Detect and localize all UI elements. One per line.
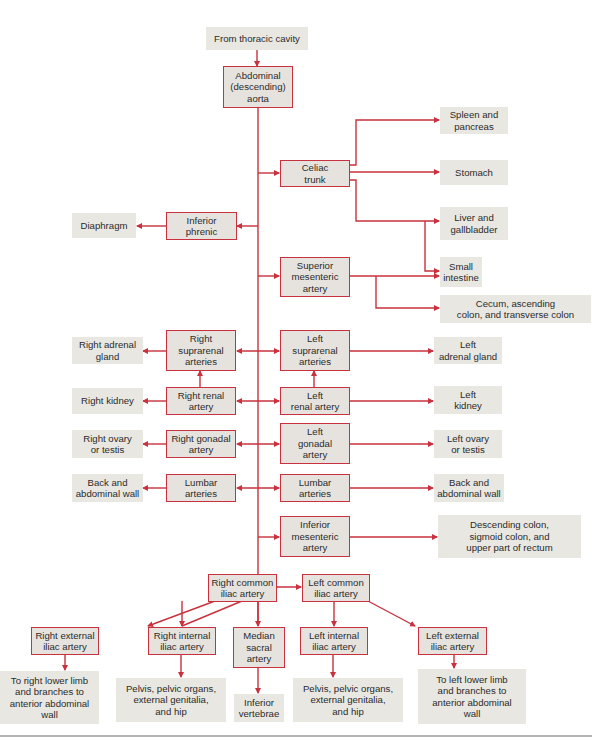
inferior-phrenic-node: Inferior phrenic: [166, 212, 237, 240]
right-suprarenal-node: Right suprarenal arteries: [166, 330, 236, 371]
superior-mesenteric-node: Superior mesenteric artery: [280, 257, 350, 297]
source-thoracic-cavity: From thoracic cavity: [206, 27, 308, 50]
right-external-iliac-node: Right external iliac artery: [31, 627, 99, 655]
left-common-iliac-node: Left common iliac artery: [302, 574, 370, 602]
left-pelvis-target: Pelvis, pelvic organs, external genitali…: [293, 678, 403, 722]
left-internal-iliac-node: Left internal iliac artery: [300, 627, 368, 655]
right-internal-iliac-node: Right internal iliac artery: [148, 627, 216, 655]
median-sacral-node: Median sacral artery: [233, 627, 285, 668]
left-lumbar-node: Lumbar arteries: [280, 474, 350, 502]
right-adrenal-target: Right adrenal gland: [72, 337, 143, 364]
left-ovary-testis-target: Left ovary or testis: [434, 430, 502, 458]
cecum-colon-target: Cecum, ascending colon, and transverse c…: [440, 295, 591, 323]
right-lumbar-node: Lumbar arteries: [166, 474, 236, 502]
left-kidney-target: Left kidney: [434, 386, 502, 414]
right-pelvis-target: Pelvis, pelvic organs, external genitali…: [116, 678, 226, 722]
left-back-wall-target: Back and abdominal wall: [434, 474, 504, 502]
right-back-wall-target: Back and abdominal wall: [72, 474, 143, 502]
right-kidney-target: Right kidney: [72, 388, 143, 414]
bottom-divider: [0, 735, 592, 737]
stomach-target: Stomach: [440, 160, 508, 185]
right-renal-node: Right renal artery: [166, 387, 236, 415]
left-adrenal-target: Left adrenal gland: [434, 337, 502, 364]
left-lower-limb-target: To left lower limb and branches to anter…: [418, 669, 526, 724]
diaphragm-target: Diaphragm: [72, 213, 136, 238]
inferior-vertebrae-target: Inferior vertebrae: [234, 694, 284, 722]
abdominal-aorta-node: Abdominal (descending) aorta: [223, 66, 293, 108]
inferior-mesenteric-node: Inferior mesenteric artery: [280, 516, 350, 557]
right-ovary-testis-target: Right ovary or testis: [72, 430, 143, 458]
descending-colon-target: Descending colon, sigmoid colon, and upp…: [438, 515, 581, 558]
small-intestine-target: Small intestine: [440, 257, 482, 287]
celiac-trunk-node: Celiac trunk: [280, 160, 350, 187]
left-renal-node: Left renal artery: [280, 387, 350, 415]
left-suprarenal-node: Left suprarenal arteries: [280, 330, 350, 371]
right-lower-limb-target: To right lower limb and branches to ante…: [0, 671, 99, 724]
liver-gallbladder-target: Liver and gallbladder: [440, 207, 508, 240]
spleen-pancreas-target: Spleen and pancreas: [440, 107, 508, 134]
right-common-iliac-node: Right common iliac artery: [208, 574, 277, 602]
left-gonadal-node: Left gonadal artery: [280, 423, 350, 464]
left-external-iliac-node: Left external iliac artery: [418, 627, 487, 655]
right-gonadal-node: Right gonadal artery: [166, 430, 236, 458]
